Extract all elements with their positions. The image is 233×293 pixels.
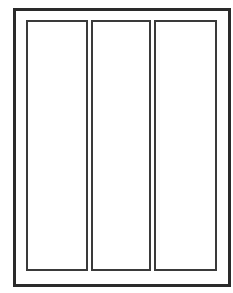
panel-3 xyxy=(154,20,217,271)
panel-2 xyxy=(91,20,151,271)
panel-1 xyxy=(26,20,88,271)
